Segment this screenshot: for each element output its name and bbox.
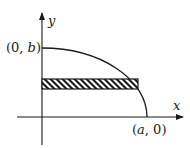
x-axis-label: x [173,99,180,112]
x-intercept-var: a [137,122,145,137]
hatched-strip [42,79,138,89]
y-intercept-label: (0, b) [6,41,41,54]
y-intercept-close: ) [36,40,41,55]
y-intercept-var: b [28,40,36,55]
x-intercept-label: (a, 0) [132,123,166,136]
y-intercept-prefix: (0, [6,40,28,55]
y-axis-label: y [48,14,55,27]
x-intercept-rest: , 0) [145,122,167,137]
